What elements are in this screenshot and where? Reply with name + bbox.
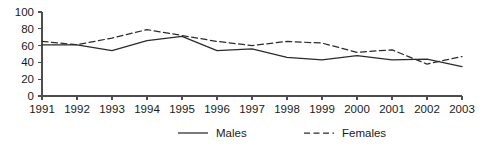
x-tick-label: 1992 <box>64 103 90 115</box>
chart-canvas: 0204060801001991199219931994199519961997… <box>0 0 495 150</box>
line-chart: 0204060801001991199219931994199519961997… <box>0 0 495 150</box>
legend: MalesFemales <box>178 127 386 139</box>
series-line-males <box>42 36 462 66</box>
y-tick-label: 40 <box>21 56 34 68</box>
y-tick-label: 0 <box>28 90 34 102</box>
series-line-females <box>42 30 462 64</box>
x-tick-label: 1999 <box>309 103 335 115</box>
x-tick-label: 1991 <box>29 103 55 115</box>
x-tick-label: 1997 <box>239 103 265 115</box>
y-tick-label: 60 <box>21 40 34 52</box>
y-tick-label: 100 <box>15 6 34 18</box>
x-tick-label: 1993 <box>99 103 125 115</box>
x-tick-label: 1994 <box>134 103 160 115</box>
axis-lines <box>42 12 462 96</box>
x-tick-label: 2000 <box>344 103 370 115</box>
y-tick-label: 20 <box>21 73 34 85</box>
x-tick-label: 1998 <box>274 103 300 115</box>
x-tick-label: 1995 <box>169 103 195 115</box>
x-tick-label: 2003 <box>449 103 475 115</box>
x-axis-ticks: 1991199219931994199519961997199819992000… <box>29 96 475 115</box>
series-group <box>42 30 462 67</box>
x-tick-label: 2002 <box>414 103 440 115</box>
y-tick-label: 80 <box>21 23 34 35</box>
axes-group <box>42 12 462 96</box>
legend-label-females: Females <box>342 127 386 139</box>
legend-label-males: Males <box>216 127 247 139</box>
y-axis-ticks: 020406080100 <box>15 6 42 102</box>
x-tick-label: 1996 <box>204 103 230 115</box>
x-tick-label: 2001 <box>379 103 405 115</box>
